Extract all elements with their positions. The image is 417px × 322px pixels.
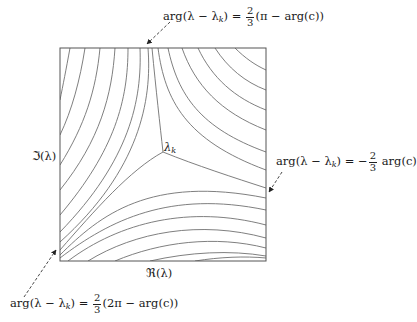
annotation-top-fraction: 23 (246, 6, 254, 28)
frac-denominator: 3 (247, 18, 253, 29)
annotation-bottom-lhs: arg(λ − λ (10, 296, 66, 310)
saddle-point-label: λk (164, 142, 176, 155)
x-axis-label: ℜ(λ) (146, 268, 172, 280)
annotation-top-rhs: (π − arg(c)) (255, 9, 324, 23)
frac-numerator: 2 (246, 6, 254, 18)
annotation-bottom: arg(λ − λk) = 23(2π − arg(c)) (10, 293, 178, 315)
annotation-top-eq: ) = (224, 9, 245, 23)
y-axis-label: ℑ(λ) (32, 151, 56, 163)
arrow-right (269, 172, 282, 192)
annotation-top: arg(λ − λk) = 23(π − arg(c)) (163, 6, 324, 28)
frac-numerator: 2 (93, 293, 101, 305)
annotation-top-lhs: arg(λ − λ (163, 9, 219, 23)
annotation-right-eq: ) = − (337, 154, 368, 168)
lambda-subscript: k (171, 146, 176, 155)
annotation-right-lhs: arg(λ − λ (276, 154, 332, 168)
annotation-bottom-rhs: (2π − arg(c)) (102, 296, 178, 310)
frac-denominator: 3 (370, 163, 376, 174)
annotation-right-rhs: arg(c) (378, 154, 417, 168)
frac-numerator: 2 (369, 151, 377, 163)
annotation-right: arg(λ − λk) = −23 arg(c) (276, 151, 417, 173)
annotation-bottom-fraction: 23 (93, 293, 101, 315)
annotation-bottom-eq: ) = (71, 296, 92, 310)
plot-frame (60, 48, 266, 261)
annotation-right-fraction: 23 (369, 151, 377, 173)
level-curves (60, 48, 266, 261)
arrow-bottom (24, 250, 56, 297)
frac-denominator: 3 (94, 305, 100, 316)
